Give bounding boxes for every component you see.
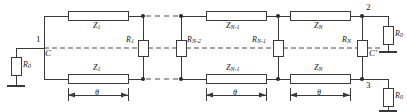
symmetry-label-right: C': [369, 49, 377, 58]
load-bottom-resistor-box: [383, 88, 393, 106]
symmetry-label-left: C: [45, 49, 51, 58]
series-box-bottom-2: [206, 74, 266, 83]
series-box-bottom-1: [68, 74, 128, 83]
junction-bottom-3: [276, 77, 280, 81]
junction-bottom-1: [141, 77, 145, 81]
series-box-bottom-3: [290, 74, 350, 83]
dimension-label-1: θ: [95, 89, 99, 97]
arrow-3-left: [290, 92, 297, 97]
series-box-top-3: [290, 11, 350, 20]
series-label-top-2: ZN-1: [226, 22, 239, 30]
termination-label-bottom: R0: [395, 92, 403, 100]
shunt-label-4: RN: [342, 36, 351, 44]
series-label-top-1: Z1: [93, 22, 100, 30]
arrow-1-right: [121, 92, 128, 97]
node-label-2: 2: [366, 3, 371, 12]
junction-top-2: [179, 14, 183, 18]
arrow-3-right: [343, 92, 350, 97]
junction-top-4: [360, 14, 364, 18]
dimension-label-2: θ: [233, 89, 237, 97]
series-label-bottom-1: Z1: [93, 64, 100, 72]
shunt-label-2: RN-2: [187, 36, 201, 44]
series-label-top-3: ZN: [314, 22, 322, 30]
junction-top-3: [276, 14, 280, 18]
termination-label-top: R0: [395, 30, 403, 38]
junction-bottom-4: [360, 77, 364, 81]
circuit-schematic-canvas: [0, 0, 407, 112]
arrow-2-left: [206, 92, 213, 97]
shunt-label-1: R1: [126, 36, 134, 44]
shunt-resistor-box-2: [176, 40, 186, 56]
series-label-bottom-3: ZN: [314, 64, 322, 72]
shunt-label-3: RN-1: [252, 36, 266, 44]
dimension-label-3: θ: [317, 89, 321, 97]
series-label-bottom-2: ZN-1: [226, 64, 239, 72]
node-label-3: 3: [366, 81, 371, 90]
arrow-2-right: [259, 92, 266, 97]
shunt-resistor-box-4: [357, 40, 367, 56]
node-label-1: 1: [36, 35, 41, 44]
circuit-diagram: 1 2 3 C C' Z1 ZN-1 ZN Z1 ZN-1 ZN R1 RN-2…: [0, 0, 407, 112]
load-top-resistor-box: [383, 26, 393, 44]
source-resistor-box: [11, 57, 21, 75]
junction-bottom-2: [179, 77, 183, 81]
series-box-top-2: [206, 11, 266, 20]
termination-label-source: R0: [23, 61, 31, 69]
junction-top-1: [141, 14, 145, 18]
shunt-resistor-box-3: [273, 40, 283, 56]
series-box-top-1: [68, 11, 128, 20]
shunt-resistor-box-1: [138, 40, 148, 56]
arrow-1-left: [68, 92, 75, 97]
